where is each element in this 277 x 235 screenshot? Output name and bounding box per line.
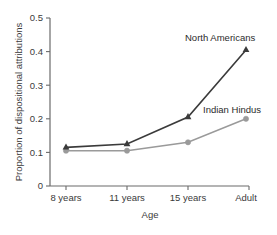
line-chart: 0 0.1 0.2 0.3 0.4 0.5 8 years 11 years 1… [0, 0, 277, 235]
x-tick-label-8-years: 8 years [50, 192, 81, 203]
y-tick-label-4: 0.4 [30, 46, 43, 57]
y-axis-title: Proportion of dispositional attributions [13, 23, 24, 182]
data-point-indian-hindus-adult [243, 116, 248, 121]
chart-page: 0 0.1 0.2 0.3 0.4 0.5 8 years 11 years 1… [0, 0, 277, 235]
y-tick-label-1: 0.1 [30, 147, 43, 158]
y-tick-label-3: 0.3 [30, 80, 43, 91]
x-tick-label-adult: Adult [235, 192, 257, 203]
x-axis-title: Age [142, 209, 159, 220]
series-label-indian-hindus: Indian Hindus [203, 104, 261, 115]
y-tick-label-5: 0.5 [30, 12, 43, 23]
series-label-north-americans: North Americans [185, 32, 255, 43]
y-tick-label-0: 0 [38, 180, 43, 191]
x-tick-label-15-years: 15 years [170, 192, 207, 203]
x-tick-label-11-years: 11 years [109, 192, 145, 203]
y-tick-label-2: 0.2 [30, 113, 43, 124]
data-point-indian-hindus-15-years [185, 140, 190, 145]
data-point-indian-hindus-11-years [124, 148, 129, 153]
